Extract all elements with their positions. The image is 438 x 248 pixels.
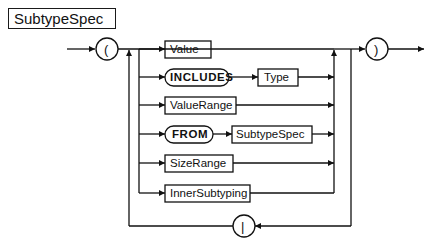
- label-includes: INCLUDES: [170, 71, 234, 83]
- label-subtypespec: SubtypeSpec: [236, 128, 305, 140]
- label-valuerange: ValueRange: [170, 99, 232, 111]
- syntax-diagram: ( ) | Value INCLUDES Type ValueRange FRO…: [0, 0, 438, 248]
- label-value: Value: [170, 43, 199, 55]
- label-innersubtyping: InnerSubtyping: [170, 187, 247, 199]
- label-type: Type: [264, 71, 289, 83]
- label-from: FROM: [172, 128, 208, 140]
- label-sizerange: SizeRange: [170, 157, 226, 169]
- separator-label: |: [241, 219, 244, 234]
- close-paren-label: ): [374, 42, 378, 57]
- open-paren-label: (: [104, 42, 109, 57]
